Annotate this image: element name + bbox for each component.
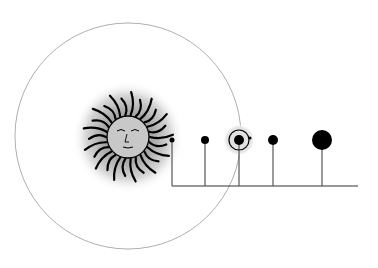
planet-body <box>201 136 209 144</box>
planet-2 <box>201 136 209 186</box>
planet-body <box>312 130 332 150</box>
planet-body <box>234 135 244 145</box>
planets <box>170 124 333 186</box>
moon <box>249 137 252 140</box>
solar-diagram <box>0 0 378 268</box>
sun-face <box>107 116 149 158</box>
sun <box>72 81 184 193</box>
planet-5 <box>312 130 332 186</box>
planet-body <box>170 138 175 143</box>
planet-3-earth <box>223 124 255 186</box>
planet-4 <box>268 135 278 186</box>
planet-body <box>268 135 278 145</box>
